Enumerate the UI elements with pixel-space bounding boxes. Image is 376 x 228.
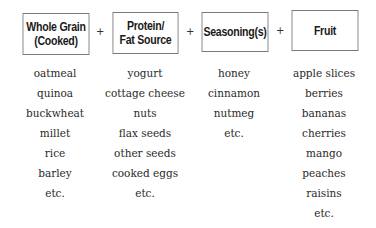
header-label: Fruit — [314, 24, 336, 38]
list-item: etc. — [10, 183, 100, 203]
plus-operator: + — [186, 27, 194, 37]
list-item: nuts — [100, 103, 190, 123]
list-item: raisins — [279, 183, 369, 203]
column-whole-grain: oatmeal quinoa buckwheat millet rice bar… — [10, 63, 100, 203]
plus-operator: + — [96, 27, 104, 37]
plus-operator: + — [276, 26, 284, 36]
header-label: Seasoning(s) — [203, 25, 266, 39]
list-item: flax seeds — [100, 123, 190, 143]
list-item: etc. — [279, 203, 369, 223]
list-item: oatmeal — [10, 63, 100, 83]
list-item: millet — [10, 123, 100, 143]
list-item: cottage cheese — [100, 83, 190, 103]
list-item: barley — [10, 163, 100, 183]
header-label: Whole Grain — [26, 20, 85, 34]
list-item: cherries — [279, 123, 369, 143]
column-seasonings: honey cinnamon nutmeg etc. — [189, 63, 279, 143]
list-item: cooked eggs — [100, 163, 190, 183]
list-item: cinnamon — [189, 83, 279, 103]
header-label: Protein/ — [120, 19, 172, 33]
header-label: (Cooked) — [26, 34, 85, 48]
header-box-fruit: Fruit — [292, 10, 359, 51]
list-item: berries — [279, 83, 369, 103]
list-item: mango — [279, 143, 369, 163]
list-item: honey — [189, 63, 279, 83]
list-item: other seeds — [100, 143, 190, 163]
list-item: peaches — [279, 163, 369, 183]
column-protein-fat: yogurt cottage cheese nuts flax seeds ot… — [100, 63, 190, 203]
column-fruit: apple slices berries bananas cherries ma… — [279, 63, 369, 223]
header-box-whole-grain: Whole Grain (Cooked) — [23, 13, 90, 55]
list-item: quinoa — [10, 83, 100, 103]
list-item: yogurt — [100, 63, 190, 83]
header-box-protein-fat: Protein/ Fat Source — [113, 12, 179, 54]
list-item: rice — [10, 143, 100, 163]
list-item: apple slices — [279, 63, 369, 83]
list-item: etc. — [100, 183, 190, 203]
list-item: etc. — [189, 123, 279, 143]
list-item: buckwheat — [10, 103, 100, 123]
header-label: Fat Source — [120, 33, 172, 47]
list-item: bananas — [279, 103, 369, 123]
header-box-seasonings: Seasoning(s) — [202, 12, 269, 52]
list-item: nutmeg — [189, 103, 279, 123]
